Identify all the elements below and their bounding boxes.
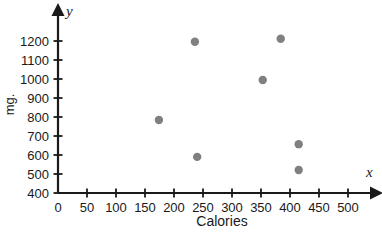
x-axis-tick-label: 100 [105, 200, 127, 215]
scatter-point [295, 140, 303, 148]
y-axis-tick-label: 600 [27, 148, 49, 163]
scatter-point [277, 35, 285, 43]
y-axis-tick-label: 900 [27, 91, 49, 106]
scatter-point [191, 38, 199, 46]
x-axis-title: Calories [0, 214, 382, 228]
x-axis-tick-label: 400 [279, 200, 301, 215]
y-axis-tick-label: 400 [27, 186, 49, 201]
x-axis-tick-label: 500 [337, 200, 359, 215]
y-axis-tick-label: 1200 [20, 34, 49, 49]
x-axis-tick-label: 0 [54, 200, 61, 215]
scatter-plot-figure: 0501001502002503003504004505004005006007… [0, 0, 382, 239]
x-axis-variable-label: x [366, 165, 373, 180]
y-axis-tick-label: 1100 [21, 53, 49, 68]
x-axis-title-text: Calories [196, 214, 247, 228]
x-axis-tick-label: 150 [134, 200, 156, 215]
y-axis-variable-label: y [66, 4, 73, 19]
x-axis-tick-label: 200 [163, 200, 185, 215]
scatter-point [155, 116, 163, 124]
y-axis-title: mg. [3, 83, 16, 127]
scatter-point [259, 76, 267, 84]
y-axis-tick-label: 700 [27, 129, 49, 144]
y-axis-tick-label: 800 [27, 110, 49, 125]
x-axis-tick-label: 350 [250, 200, 272, 215]
x-axis-tick-label: 450 [308, 200, 330, 215]
y-axis-tick-label: 1000 [20, 72, 49, 87]
plot-canvas: 0501001502002503003504004505004005006007… [0, 0, 382, 239]
scatter-point [193, 153, 201, 161]
scatter-point [295, 166, 303, 174]
x-axis-tick-label: 50 [80, 200, 94, 215]
y-axis-tick-label: 500 [27, 167, 49, 182]
